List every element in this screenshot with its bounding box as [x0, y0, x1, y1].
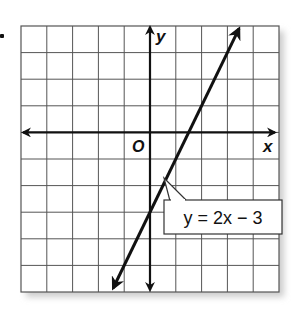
x-axis-label: x: [262, 137, 274, 156]
origin-label: O: [132, 138, 145, 155]
coordinate-plane: y x O y = 2x − 3: [0, 0, 296, 310]
y-axis-label: y: [155, 27, 167, 46]
equation-label: y = 2x − 3: [183, 208, 262, 228]
